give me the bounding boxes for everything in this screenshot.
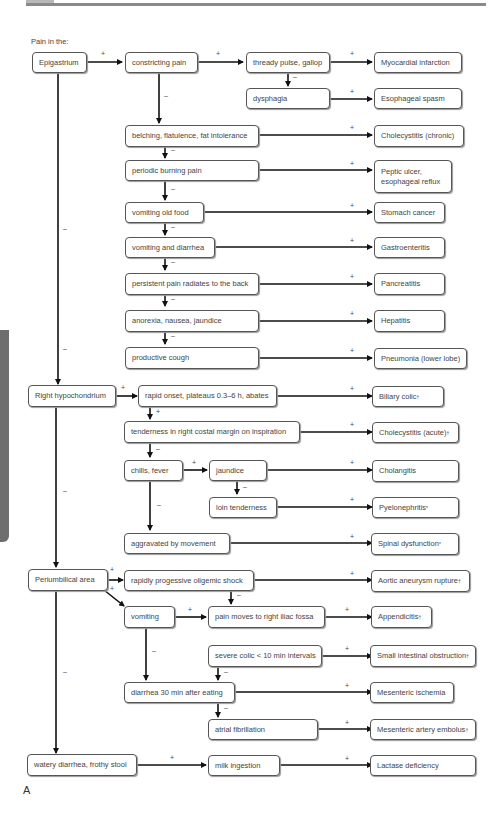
- dx-small-intestinal-obstruction: Small intestinal obstruction†: [370, 645, 476, 667]
- sign-minus: –: [157, 501, 161, 508]
- node-chills-fever: chills, fever: [124, 460, 183, 481]
- sign-plus: +: [345, 719, 349, 726]
- dx-label: Aortic aneurysm rupture: [378, 576, 458, 585]
- node-vomiting: vomiting: [124, 606, 175, 628]
- sign-plus: +: [350, 88, 354, 95]
- sign-plus: +: [345, 755, 349, 762]
- dx-mesenteric-embolus: Mesenteric artery embolus†: [370, 719, 476, 740]
- node-atrial-fibrillation: atrial fibrillation: [208, 719, 318, 740]
- node-loin-tenderness: loin tenderness: [209, 497, 277, 518]
- node-aggravated-movement: aggravated by movement: [124, 533, 230, 554]
- dx-cholecystitis-chronic: Cholecystitis (chronic): [374, 125, 464, 147]
- node-periodic-burning-pain: periodic burning pain: [125, 160, 259, 181]
- dx-appendicitis: Appendicitis†: [371, 606, 432, 628]
- sign-plus: +: [350, 459, 354, 466]
- dx-biliary-colic: Biliary colic†: [372, 386, 444, 407]
- node-epigastrium: Epigastrium: [32, 52, 87, 73]
- sign-minus: –: [293, 73, 297, 80]
- sign-minus: –: [63, 668, 67, 675]
- sign-minus: –: [156, 445, 160, 452]
- node-oligemic-shock: rapidly progessive oligemic shock: [124, 570, 254, 591]
- dx-pancreatitis: Pancreatitis: [374, 273, 445, 295]
- sign-plus: +: [110, 566, 114, 573]
- node-anorexia: anorexia, nausea, jaundice: [125, 310, 259, 332]
- node-tenderness-costal: tenderness in right costal margin on ins…: [124, 421, 300, 443]
- dx-pneumonia: Pneumonia (lower lobe): [374, 348, 467, 369]
- dx-label: Mesenteric artery embolus: [377, 725, 465, 734]
- sign-plus: +: [188, 606, 192, 613]
- sign-minus: –: [171, 223, 175, 230]
- dx-label: Biliary colic: [379, 392, 417, 401]
- node-rapid-onset: rapid onset, plateaus 0.3–6 h, abates: [138, 385, 277, 407]
- sign-plus: +: [110, 585, 114, 592]
- sign-minus: –: [152, 647, 156, 654]
- dx-spinal-dysfunction: Spinal dysfunction*: [371, 533, 459, 555]
- panel-label: A: [23, 784, 30, 796]
- dx-label: Cholecystitis (acute): [379, 428, 447, 437]
- node-milk-ingestion: milk ingestion: [208, 755, 280, 776]
- sign-plus: +: [101, 50, 105, 57]
- sign-plus: +: [350, 273, 354, 280]
- node-severe-colic: severe colic < 10 min intervals: [208, 645, 322, 667]
- node-belching: belching, flatulence, fat intolerance: [125, 125, 259, 147]
- dx-gastroenteritis: Gastroenteritis: [374, 237, 445, 258]
- node-vomiting-old-food: vomiting old food: [125, 202, 204, 223]
- sign-plus: +: [156, 408, 160, 415]
- node-constricting-pain: constricting pain: [125, 52, 198, 73]
- dx-stomach-cancer: Stomach cancer: [374, 202, 445, 223]
- sign-plus: +: [345, 645, 349, 652]
- node-watery-diarrhea: watery diarrhea, frothy stool: [27, 754, 137, 776]
- sign-plus: +: [350, 570, 354, 577]
- sign-minus: –: [237, 591, 241, 598]
- node-vomiting-diarrhea: vomiting and diarrhea: [125, 237, 215, 258]
- sign-plus: +: [345, 682, 349, 689]
- sign-plus: +: [350, 202, 354, 209]
- dx-mesenteric-ischemia: Mesenteric ischemia: [370, 682, 454, 703]
- dx-cholangitis: Cholangitis: [372, 460, 459, 482]
- node-diarrhea-30-min: diarrhea 30 min after eating: [124, 682, 235, 703]
- dx-label: Small intestinal obstruction: [377, 651, 466, 660]
- sign-minus: –: [63, 487, 67, 494]
- sign-plus: +: [350, 421, 354, 428]
- sign-minus: –: [224, 704, 228, 711]
- dx-pyelonephritis: Pyelonephritis*: [372, 497, 459, 518]
- sign-plus: +: [121, 384, 125, 391]
- sign-plus: +: [350, 237, 354, 244]
- sign-plus: +: [350, 124, 354, 131]
- sign-plus: +: [350, 533, 354, 540]
- sign-plus: +: [216, 50, 220, 57]
- node-persistent-pain: persistent pain radiates to the back: [125, 273, 259, 295]
- sign-minus: –: [171, 332, 175, 339]
- sign-minus: –: [164, 92, 168, 99]
- sign-minus: –: [171, 146, 175, 153]
- sign-plus: +: [350, 310, 354, 317]
- sign-plus: +: [350, 496, 354, 503]
- dx-peptic-ulcer: Peptic ulcer, esophageal reflux: [374, 160, 452, 193]
- dx-aortic-aneurysm: Aortic aneurysm rupture†: [371, 570, 470, 592]
- sign-minus: –: [171, 258, 175, 265]
- node-periumbilical-area: Periumbilical area: [28, 569, 108, 591]
- sign-minus: –: [63, 225, 67, 232]
- dx-cholecystitis-acute: Cholecystitis (acute)†: [372, 422, 459, 443]
- node-pain-moves-iliac: pain moves to right iliac fossa: [208, 606, 325, 628]
- sign-minus: –: [171, 185, 175, 192]
- dx-hepatitis: Hepatitis: [374, 310, 445, 332]
- dx-esophageal-spasm: Esophageal spasm: [374, 88, 462, 109]
- dx-label: Spinal dysfunction: [378, 539, 439, 548]
- sign-plus: +: [350, 50, 354, 57]
- node-productive-cough: productive cough: [125, 347, 259, 369]
- node-jaundice: jaundice: [209, 460, 267, 481]
- sign-plus: +: [350, 385, 354, 392]
- dx-label: Pyelonephritis: [379, 503, 426, 512]
- sign-plus: +: [170, 754, 174, 761]
- node-dysphagia: dysphagia: [246, 88, 330, 109]
- sign-minus: –: [171, 295, 175, 302]
- node-thready-pulse: thready pulse, gallop: [246, 52, 330, 73]
- sign-plus: +: [350, 160, 354, 167]
- dx-lactase-deficiency: Lactase deficiency: [370, 755, 476, 776]
- sign-plus: +: [192, 459, 196, 466]
- node-right-hypochondrium: Right hypochondrium: [28, 385, 116, 407]
- sign-minus: –: [243, 483, 247, 490]
- sign-plus: +: [350, 347, 354, 354]
- sign-minus: –: [63, 345, 67, 352]
